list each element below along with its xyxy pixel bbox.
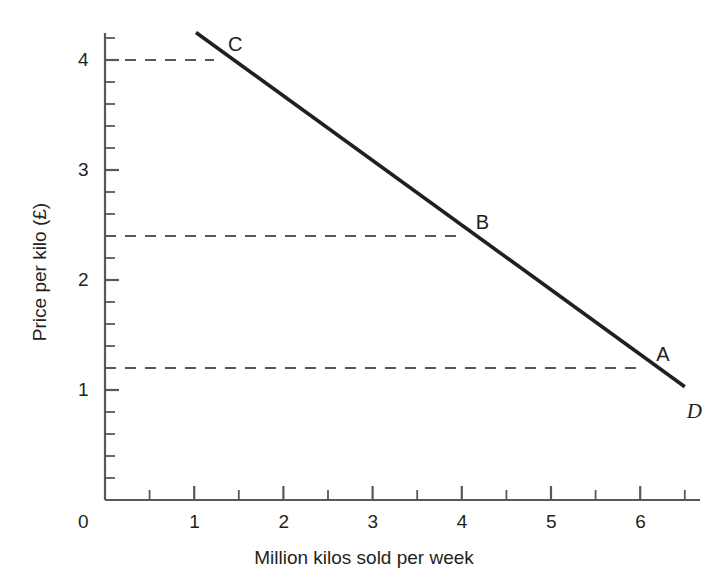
- point-label-b: B: [476, 212, 489, 232]
- demand-curve-series: [196, 33, 685, 387]
- x-tick-label-5: 5: [546, 512, 557, 531]
- axis-lines: [105, 33, 700, 500]
- x-tick-label-4: 4: [457, 512, 468, 531]
- y-axis-title-text: Price per kilo (£): [30, 203, 49, 341]
- x-tick-label-2: 2: [278, 512, 289, 531]
- demand-curve-figure: Price per kilo (£) Million kilos sold pe…: [0, 0, 728, 584]
- y-tick-label-3: 3: [78, 160, 89, 179]
- point-label-a: A: [656, 344, 669, 364]
- x-tick-label-6: 6: [635, 512, 646, 531]
- y-tick-label-1: 1: [78, 380, 89, 399]
- origin-tick-label: 0: [78, 512, 89, 531]
- y-tick-label-2: 2: [78, 270, 89, 289]
- x-tick-label-1: 1: [189, 512, 200, 531]
- demand-curve-label: D: [687, 401, 702, 422]
- y-axis-title: Price per kilo (£): [22, 122, 56, 422]
- x-axis-title: Million kilos sold per week: [0, 548, 728, 567]
- chart-plot-area: [0, 0, 728, 584]
- annotation-leader-lines: [105, 60, 642, 368]
- y-axis-ticks: [105, 38, 119, 478]
- demand-curve-line: [196, 33, 685, 387]
- x-tick-label-3: 3: [368, 512, 379, 531]
- y-tick-label-4: 4: [78, 50, 89, 69]
- x-axis-ticks: [150, 486, 685, 500]
- point-label-c: C: [228, 34, 242, 54]
